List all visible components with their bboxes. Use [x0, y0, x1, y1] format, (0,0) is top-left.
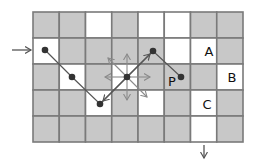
grid-cell-gray [86, 116, 112, 142]
grid-cell-white [191, 116, 217, 142]
grid-cell-gray [33, 116, 59, 142]
grid-cell-gray [59, 38, 85, 64]
grid-cell-white [86, 12, 112, 38]
grid-cell-white [164, 38, 190, 64]
grid-cell-gray [112, 116, 138, 142]
grid-cell-gray [164, 116, 190, 142]
grid-cell-gray [59, 90, 85, 116]
grid-cell-gray [33, 64, 59, 90]
grid-cell-gray [217, 90, 243, 116]
path-dot [150, 48, 157, 55]
grid-cell-gray [59, 116, 85, 142]
grid-path-diagram: ABCP [0, 0, 257, 163]
label-a: A [205, 44, 214, 59]
path-dot [69, 74, 76, 81]
path-dot [97, 101, 104, 108]
path-dot [178, 74, 185, 81]
grid-cell-gray [112, 38, 138, 64]
grid-cell-white [138, 90, 164, 116]
grid-cell-gray [217, 12, 243, 38]
grid-cell-gray [191, 12, 217, 38]
grid-cell-gray [191, 64, 217, 90]
grid-cell-white [138, 12, 164, 38]
grid-cell-gray [33, 90, 59, 116]
diagram-canvas: ABCP [0, 0, 257, 163]
grid-cell-gray [217, 116, 243, 142]
grid-cell-white [164, 12, 190, 38]
grid-cell-gray [112, 90, 138, 116]
grid-cell-gray [217, 38, 243, 64]
path-dot [42, 47, 49, 54]
label-c: C [202, 97, 211, 112]
path-dot [124, 74, 131, 81]
grid-cell-gray [33, 12, 59, 38]
grid-cell-gray [86, 38, 112, 64]
grid-cell-gray [59, 12, 85, 38]
grid-cell-gray [164, 90, 190, 116]
grid-cell-gray [112, 12, 138, 38]
label-p: P [168, 74, 176, 89]
label-b: B [228, 70, 237, 85]
grid-cell-gray [138, 116, 164, 142]
